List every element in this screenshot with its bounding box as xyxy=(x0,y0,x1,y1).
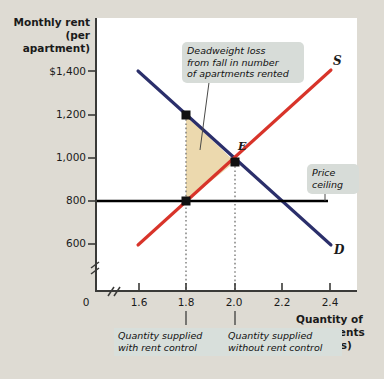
supply-curve-label: S xyxy=(333,54,342,68)
deadweight-loss-callout: Deadweight loss from fall in number of a… xyxy=(182,42,304,83)
price-ceiling-callout-line1: Price xyxy=(312,167,354,179)
caption-with-line2: with rent control xyxy=(118,342,224,354)
caption-quantity-without-rent-control: Quantity supplied without rent control xyxy=(224,328,342,356)
caption-quantity-with-rent-control: Quantity supplied with rent control xyxy=(114,328,228,356)
price-ceiling-callout-line2: ceiling xyxy=(312,179,354,191)
caption-with-line1: Quantity supplied xyxy=(118,330,224,342)
deadweight-loss-callout-line2: from fall in number xyxy=(187,57,299,69)
caption-without-line1: Quantity supplied xyxy=(228,330,338,342)
equilibrium-point-label: E xyxy=(238,140,246,153)
deadweight-loss-callout-line3: of apartments rented xyxy=(187,68,299,80)
marker-equilibrium xyxy=(231,158,240,167)
marker-demand-at-1-8 xyxy=(182,111,191,120)
deadweight-loss-callout-line1: Deadweight loss xyxy=(187,45,299,57)
caption-without-line2: without rent control xyxy=(228,342,338,354)
economics-chart-figure: Monthly rent (per apartment) Quantity of… xyxy=(0,0,384,379)
price-ceiling-callout: Price ceiling xyxy=(307,164,359,194)
marker-supply-at-ceiling xyxy=(182,197,191,206)
demand-curve-label: D xyxy=(334,243,344,257)
deadweight-loss-region xyxy=(186,115,235,201)
